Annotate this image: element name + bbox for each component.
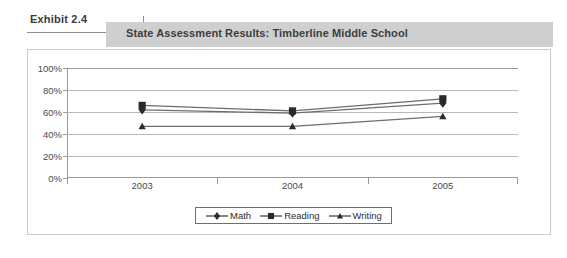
series-plot-layer [67, 68, 518, 178]
data-point-marker [139, 102, 146, 109]
legend-entry-reading: Reading [259, 210, 319, 222]
data-point-marker [439, 95, 446, 102]
y-axis-tick-label: 80% [22, 85, 62, 96]
x-axis-tick-label: 2004 [282, 180, 303, 191]
series-reading [139, 95, 447, 114]
y-axis-tick-label: 100% [22, 63, 62, 74]
chart-title: State Assessment Results: Timberline Mid… [126, 27, 408, 39]
legend-label: Reading [284, 210, 319, 221]
chart-legend: MathReadingWriting [195, 207, 392, 224]
x-axis-tick-label: 2003 [132, 180, 153, 191]
y-axis-tick-label: 20% [22, 151, 62, 162]
y-axis-labels: 100%80%60%40%20%0% [20, 68, 62, 178]
x-axis-tick-label: 2005 [432, 180, 453, 191]
legend-label: Math [230, 210, 251, 221]
legend-diamond-icon [205, 210, 229, 222]
legend-square-icon [259, 210, 283, 222]
legend-entry-writing: Writing [328, 210, 382, 222]
y-axis-tick-label: 0% [22, 173, 62, 184]
y-axis-tick-label: 40% [22, 129, 62, 140]
plot-area [67, 68, 518, 178]
legend-triangle-icon [328, 210, 352, 222]
x-axis-labels: 200320042005 [67, 180, 518, 196]
data-point-marker [289, 107, 296, 114]
legend-label: Writing [353, 210, 382, 221]
legend-entry-math: Math [205, 210, 251, 222]
y-axis-tick-label: 60% [22, 107, 62, 118]
